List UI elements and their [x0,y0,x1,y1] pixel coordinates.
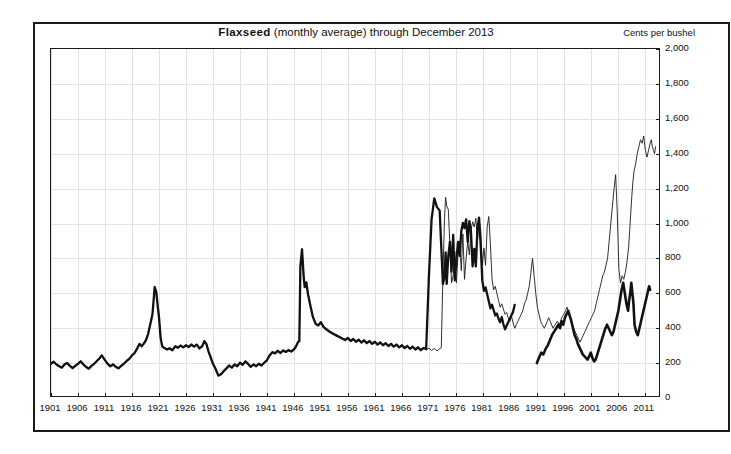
x-axis-tick [483,393,484,397]
x-tick-label: 1941 [255,402,276,414]
y-tick-label: 0 [665,392,670,402]
x-axis-tick [321,393,322,397]
y-tick-label: 600 [665,287,681,297]
x-axis-tick [564,393,565,397]
x-axis-tick [402,393,403,397]
x-axis-tick [267,393,268,397]
x-axis-tick [186,393,187,397]
y-axis-tick [656,154,660,155]
x-tick-label: 1996 [552,402,573,414]
y-tick-label: 1,600 [665,113,689,123]
series-line-1 [51,198,515,375]
x-axis-tick [645,393,646,397]
y-axis-tick [656,258,660,259]
x-axis-tick [591,393,592,397]
x-axis-tick [456,393,457,397]
y-axis-tick [656,328,660,329]
x-tick-label: 2011 [634,402,654,414]
y-tick-label: 1,800 [665,78,689,88]
x-tick-label: 1936 [228,402,249,414]
x-tick-label: 1981 [471,402,492,414]
chart-title-bold: Flaxseed [218,26,270,38]
x-axis-tick [510,393,511,397]
x-tick-label: 1946 [282,402,303,414]
x-tick-label: 1951 [309,402,330,414]
x-axis-tick [105,393,106,397]
x-axis-tick [213,393,214,397]
x-tick-label: 1971 [417,402,438,414]
plot-area [50,48,660,397]
series-line-2 [537,283,650,363]
x-tick-label: 1956 [336,402,357,414]
x-axis-tick [132,393,133,397]
y-axis-units-label: Cents per bushel [623,27,695,38]
y-axis-tick [656,119,660,120]
series-layer [51,49,660,397]
x-tick-label: 2001 [579,402,600,414]
y-tick-label: 1,200 [665,183,689,193]
x-tick-label: 1906 [66,402,87,414]
x-axis-tick [159,393,160,397]
x-tick-label: 1926 [174,402,195,414]
x-axis-tick [294,393,295,397]
x-tick-label: 2006 [606,402,627,414]
x-axis-tick [51,393,52,397]
x-tick-label: 1986 [498,402,519,414]
x-tick-label: 1901 [39,402,60,414]
chart-title-subtitle: (monthly average) through December 2013 [274,26,494,38]
x-tick-label: 1921 [147,402,168,414]
y-axis-tick [656,293,660,294]
y-axis-tick [656,224,660,225]
x-tick-label: 1976 [444,402,465,414]
x-axis-tick [240,393,241,397]
y-axis-tick [656,189,660,190]
x-tick-label: 1991 [525,402,546,414]
x-axis-tick [537,393,538,397]
x-axis-tick [348,393,349,397]
x-tick-label: 1916 [120,402,141,414]
y-axis-tick [656,84,660,85]
x-tick-label: 1911 [94,402,114,414]
x-axis-tick-labels: 1901190619111916192119261931193619411946… [20,402,720,418]
y-tick-label: 200 [665,357,681,367]
chart-title: Flaxseed (monthly average) through Decem… [50,26,662,44]
x-axis-tick [375,393,376,397]
x-axis-tick [618,393,619,397]
x-axis-tick [78,393,79,397]
y-tick-label: 1,400 [665,148,689,158]
x-tick-label: 1961 [363,402,384,414]
y-tick-label: 400 [665,322,681,332]
x-tick-label: 1931 [201,402,222,414]
y-tick-label: 1,000 [665,218,689,228]
x-axis-tick [429,393,430,397]
y-tick-label: 800 [665,252,681,262]
y-axis-tick [656,49,660,50]
y-axis-tick-labels: 2,0001,8001,6001,4001,2001,0008006004002… [663,42,723,404]
y-axis-tick [656,363,660,364]
x-tick-label: 1966 [390,402,411,414]
y-tick-label: 2,000 [665,43,689,53]
